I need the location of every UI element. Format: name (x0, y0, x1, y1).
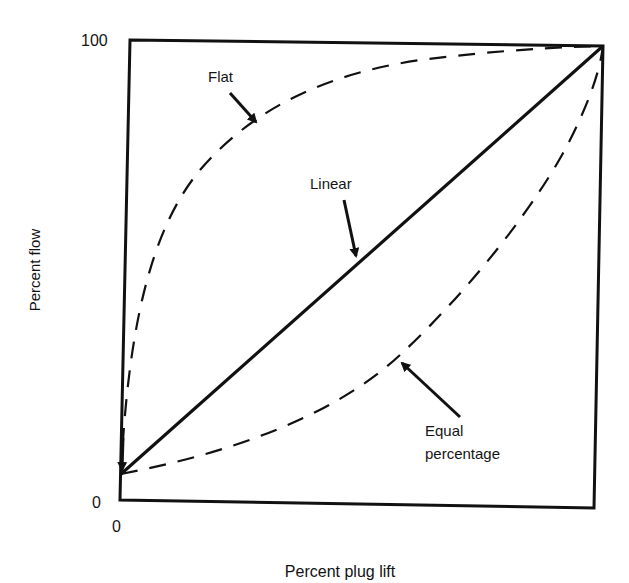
flat-label: Flat (208, 69, 233, 84)
flat-arrow-icon (230, 93, 256, 122)
equal-percentage-label-line1: Equal (425, 423, 463, 438)
x-axis-label: Percent plug lift (285, 563, 395, 581)
y-tick-0: 0 (92, 495, 101, 511)
y-axis-label: Percent flow (26, 229, 43, 312)
linear-label: Linear (310, 176, 352, 191)
equal-percentage-arrow-icon (402, 363, 460, 417)
equal-percentage-label-line2: percentage (425, 446, 500, 461)
y-tick-100: 100 (81, 33, 108, 49)
x-tick-0: 0 (112, 519, 121, 535)
linear-arrow-icon (344, 200, 356, 256)
linear-curve (121, 46, 603, 474)
origin-arrow-icon (122, 438, 123, 470)
